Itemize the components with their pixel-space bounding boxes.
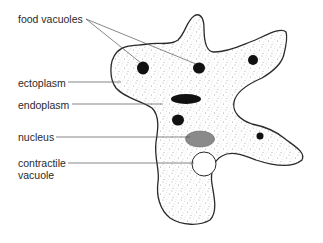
food-vacuole-6 [257, 133, 264, 140]
label-endoplasm: endoplasm [18, 99, 69, 111]
amoeba-diagram [0, 0, 323, 243]
label-food-vacuoles: food vacuoles [18, 13, 83, 25]
label-ectoplasm: ectoplasm [18, 77, 66, 89]
label-contractile-vacuole: contractile vacuole [18, 157, 66, 181]
amoeba-cell-body [111, 15, 303, 225]
contractile-vacuole [192, 152, 216, 176]
food-vacuole-5 [172, 115, 184, 126]
nucleus [186, 131, 215, 147]
food-vacuole-2 [193, 63, 205, 74]
food-vacuole-3 [248, 55, 258, 65]
label-nucleus: nucleus [18, 131, 54, 143]
food-vacuole-4 [171, 94, 201, 104]
food-vacuole-1 [137, 62, 149, 75]
